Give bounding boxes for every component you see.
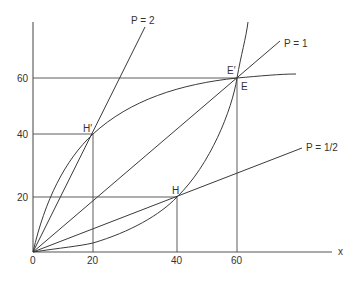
label-e: E bbox=[241, 81, 248, 92]
convex-curve bbox=[33, 22, 248, 252]
label-p-half: P = 1/2 bbox=[306, 142, 338, 153]
tick-x0: 0 bbox=[30, 255, 36, 266]
tick-x20: 20 bbox=[87, 255, 99, 266]
label-e-prime: E′ bbox=[227, 65, 236, 76]
label-h: H bbox=[172, 185, 179, 196]
diagram-canvas: P = 2 P = 1 P = 1/2 H′ H E′ E 0 20 40 60… bbox=[0, 0, 356, 283]
label-p1: P = 1 bbox=[284, 38, 308, 49]
concave-curve bbox=[33, 74, 296, 252]
tick-y20: 20 bbox=[17, 192, 29, 203]
line-p-half bbox=[33, 148, 302, 252]
tick-x60: 60 bbox=[231, 255, 243, 266]
label-p2: P = 2 bbox=[131, 15, 155, 26]
line-p1 bbox=[33, 41, 280, 252]
tick-x40: 40 bbox=[171, 255, 183, 266]
x-axis-label: x bbox=[338, 246, 343, 257]
tick-y40: 40 bbox=[17, 129, 29, 140]
line-p2 bbox=[33, 27, 145, 252]
label-h-prime: H′ bbox=[83, 123, 92, 134]
tick-y60: 60 bbox=[17, 73, 29, 84]
